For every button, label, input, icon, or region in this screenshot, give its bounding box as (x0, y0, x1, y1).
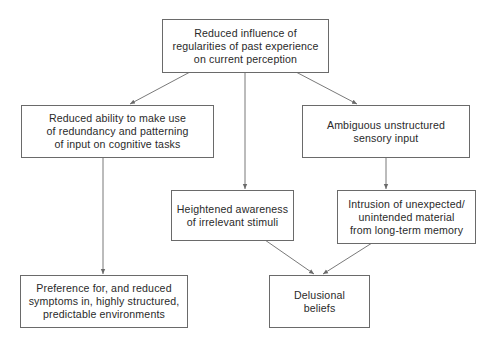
edge-influence-to-ambiguous (296, 72, 357, 104)
node-line: symptoms in, highly structured, (29, 295, 180, 308)
node-line: Heightened awareness (177, 203, 288, 216)
node-line: of redundancy and patterning (46, 125, 188, 138)
node-preference: Preference for, and reduced symptoms in,… (20, 275, 188, 328)
node-line: Reduced influence of (173, 27, 319, 40)
node-line: Delusional (294, 289, 345, 302)
edge-influence-to-ability (130, 72, 190, 104)
node-line: Preference for, and reduced (29, 282, 180, 295)
node-line: sensory input (327, 132, 445, 145)
node-reduced-influence: Reduced influence of regularities of pas… (162, 19, 329, 73)
node-line: beliefs (294, 302, 345, 315)
node-heightened-awareness: Heightened awareness of irrelevant stimu… (171, 190, 294, 241)
node-line: on current perception (173, 53, 319, 66)
node-line: unintended material (348, 211, 465, 224)
node-intrusion: Intrusion of unexpected/ unintended mate… (337, 190, 476, 244)
node-reduced-ability: Reduced ability to make use of redundanc… (21, 105, 214, 158)
node-line: of input on cognitive tasks (46, 138, 188, 151)
node-line: regularities of past experience (173, 40, 319, 53)
edge-heightened-to-delusional (265, 240, 314, 274)
node-delusional-beliefs: Delusional beliefs (269, 275, 370, 328)
node-line: of irrelevant stimuli (177, 216, 288, 229)
node-line: predictable environments (29, 308, 180, 321)
node-line: Ambiguous unstructured (327, 119, 445, 132)
edge-intrusion-to-delusional (323, 243, 372, 274)
node-line: Intrusion of unexpected/ (348, 198, 465, 211)
node-line: Reduced ability to make use (46, 112, 188, 125)
node-line: from long-term memory (348, 224, 465, 237)
node-ambiguous-input: Ambiguous unstructured sensory input (302, 105, 470, 158)
